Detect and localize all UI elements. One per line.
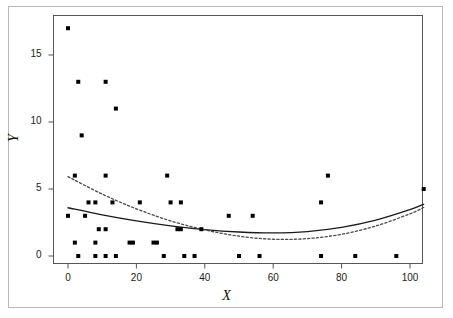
y-tick-label: 10	[10, 115, 42, 126]
data-point	[114, 107, 118, 111]
data-point	[97, 227, 101, 231]
data-point	[66, 26, 70, 30]
data-point	[83, 214, 87, 218]
data-point	[162, 254, 166, 258]
data-point	[237, 254, 241, 258]
data-point	[80, 133, 84, 137]
data-point	[193, 254, 197, 258]
data-point	[93, 254, 97, 258]
data-point	[104, 80, 108, 84]
x-tick-label: 40	[185, 272, 225, 283]
plot-frame	[54, 16, 423, 264]
figure-container: 051015020406080100 Y X	[0, 0, 453, 318]
scatter-plot-canvas	[0, 0, 453, 318]
data-point	[179, 227, 183, 231]
y-axis-title: Y	[6, 134, 22, 142]
data-point	[93, 200, 97, 204]
data-point	[152, 241, 156, 245]
x-tick-label: 0	[48, 272, 88, 283]
data-point	[165, 174, 169, 178]
data-point	[394, 254, 398, 258]
data-point	[87, 200, 91, 204]
x-tick-label: 60	[253, 272, 293, 283]
data-point	[138, 200, 142, 204]
data-point	[319, 254, 323, 258]
data-point	[76, 80, 80, 84]
data-point	[93, 241, 97, 245]
y-tick-label: 5	[10, 182, 42, 193]
y-tick-label: 15	[10, 48, 42, 59]
data-point	[114, 254, 118, 258]
data-point	[199, 227, 203, 231]
x-tick-label: 100	[390, 272, 430, 283]
data-point	[73, 174, 77, 178]
data-point	[128, 241, 132, 245]
data-point	[73, 241, 77, 245]
x-axis-title: X	[0, 288, 453, 304]
data-point	[179, 200, 183, 204]
data-point	[353, 254, 357, 258]
data-point	[182, 254, 186, 258]
data-point	[169, 200, 173, 204]
data-point	[251, 214, 255, 218]
data-point	[155, 241, 159, 245]
data-point	[326, 174, 330, 178]
data-point	[76, 254, 80, 258]
data-point	[110, 200, 114, 204]
x-tick-label: 20	[116, 272, 156, 283]
data-point	[104, 227, 108, 231]
data-point	[104, 254, 108, 258]
data-point	[319, 200, 323, 204]
data-point	[227, 214, 231, 218]
data-point	[422, 187, 426, 191]
data-point	[131, 241, 135, 245]
data-point	[104, 174, 108, 178]
data-point	[66, 214, 70, 218]
y-tick-label: 0	[10, 249, 42, 260]
data-point	[258, 254, 262, 258]
x-tick-label: 80	[322, 272, 362, 283]
data-point	[175, 227, 179, 231]
